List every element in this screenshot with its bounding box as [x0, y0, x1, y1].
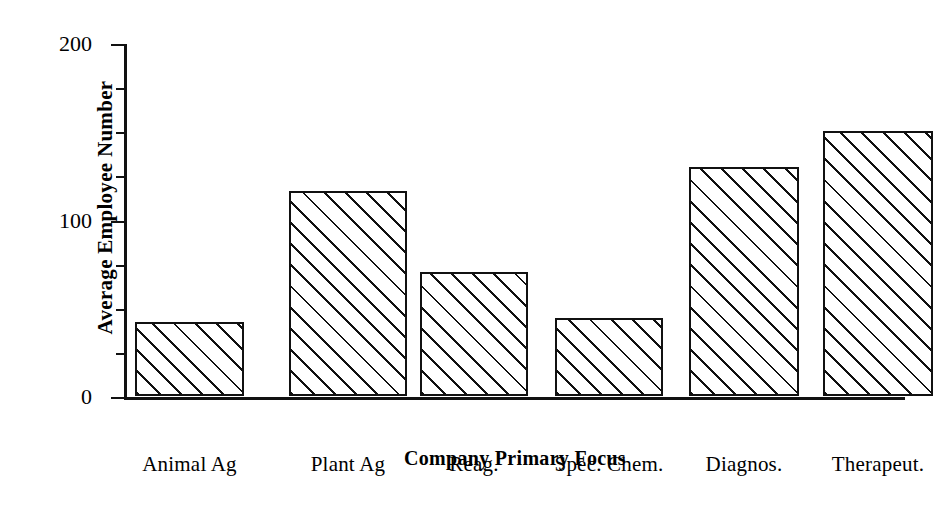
- y-tick-label: 100: [59, 208, 92, 234]
- y-tick-minor: [116, 88, 125, 90]
- x-axis-line: [124, 397, 905, 400]
- bar: [135, 322, 244, 396]
- y-tick-minor: [116, 353, 125, 355]
- y-tick-minor: [116, 309, 125, 311]
- y-tick-label: 200: [59, 31, 92, 57]
- bar-chart-figure: Average Employee Number 0 100 200 Animal…: [0, 0, 942, 507]
- bar: [289, 191, 407, 396]
- x-axis-title: Company Primary Focus: [124, 447, 906, 470]
- y-tick-major: 0: [111, 397, 125, 399]
- y-tick-major: 200: [111, 44, 125, 46]
- bar: [823, 131, 933, 396]
- y-axis-title: Average Employee Number: [93, 8, 118, 408]
- y-tick-label: 0: [81, 384, 92, 410]
- bar: [420, 272, 528, 396]
- y-tick-minor: [116, 265, 125, 267]
- plot-area: 0 100 200 Animal Ag Plant Ag Reag. Spec.…: [124, 44, 905, 399]
- bar: [555, 318, 663, 396]
- y-tick-major: 100: [111, 221, 125, 223]
- y-tick-minor: [116, 132, 125, 134]
- y-tick-minor: [116, 176, 125, 178]
- bar: [689, 167, 799, 396]
